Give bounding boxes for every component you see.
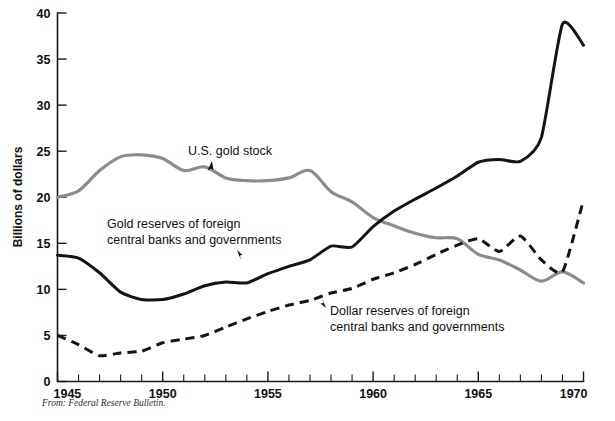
chart-page: 0510152025303540 19451950195519601965197… [0, 0, 615, 421]
axis-group: 0510152025303540 19451950195519601965197… [37, 7, 588, 401]
annotation-label-gold-reserves-line2: central banks and governments [107, 233, 281, 247]
y-axis-title: Billions of dollars [11, 146, 25, 247]
y-tick-label: 15 [37, 237, 51, 251]
source-note: From: Federal Reserve Bulletin. [41, 398, 166, 408]
annotation-gold-reserves: Gold reserves of foreign central banks a… [107, 217, 281, 260]
annotation-label-dollar-reserves-line2: central banks and governments [330, 320, 504, 334]
x-tick-label: 1970 [560, 387, 588, 401]
x-tick-label: 1960 [359, 387, 387, 401]
annotation-dollar-reserves: Dollar reserves of foreign central banks… [321, 298, 505, 334]
y-tick-label: 25 [37, 145, 51, 159]
y-tick-label: 5 [44, 329, 51, 343]
annotation-label-dollar-reserves-line1: Dollar reserves of foreign [330, 304, 470, 318]
x-tick-label: 1955 [254, 387, 282, 401]
y-tick-label: 10 [37, 283, 51, 297]
y-tick-label: 35 [37, 53, 51, 67]
y-tick-labels: 0510152025303540 [37, 7, 51, 390]
pointer-arrow-icon [237, 250, 243, 260]
x-tick-marks [58, 372, 584, 382]
x-tick-label: 1965 [464, 387, 492, 401]
y-tick-label: 30 [37, 99, 51, 113]
series-group [58, 22, 584, 356]
pointer-arrow-icon [321, 298, 327, 308]
annotation-label-gold-reserves-line1: Gold reserves of foreign [107, 217, 240, 231]
line-chart: 0510152025303540 19451950195519601965197… [0, 0, 615, 421]
y-tick-label: 40 [37, 7, 51, 21]
annotation-label-us-gold-stock: U.S. gold stock [188, 144, 273, 158]
y-tick-label: 20 [37, 191, 51, 205]
series-line-gold-reserves-foreign [58, 22, 584, 300]
axis-lines [58, 13, 584, 382]
y-tick-label: 0 [44, 375, 51, 389]
